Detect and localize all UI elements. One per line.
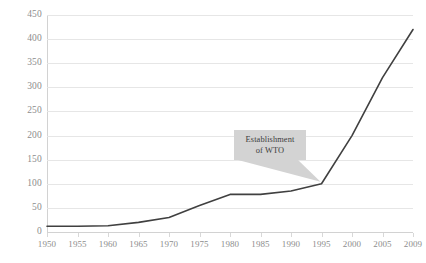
annotation-line-1: Establishment [234, 134, 306, 145]
line-chart: 050100150200250300350400450 195019551960… [0, 0, 426, 263]
series-line [0, 0, 426, 263]
annotation-callout: Establishment of WTO [234, 130, 306, 160]
annotation-line-2: of WTO [234, 145, 306, 156]
